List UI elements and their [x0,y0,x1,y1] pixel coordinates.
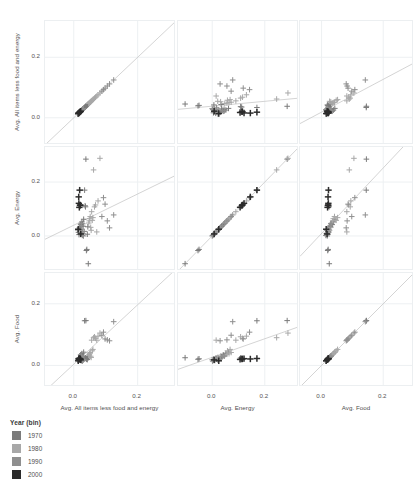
data-point [107,225,113,231]
data-point [285,90,291,96]
data-point [240,85,246,91]
legend-item-1970[interactable]: 1970 [10,429,130,442]
data-point [196,356,202,362]
data-point [90,215,96,221]
data-point [230,77,236,83]
data-point [83,156,89,162]
scatter-plot-matrix: 0.20.0Avg. All items less food and energ… [0,0,415,410]
data-point [325,247,331,253]
data-point [89,209,95,215]
data-point [76,194,82,200]
legend-swatch-icon [12,457,21,466]
trend-line [178,147,298,270]
data-point [76,187,82,193]
y-axis-title: Avg. Energy [13,191,20,225]
data-point [88,227,94,233]
data-point [344,209,350,215]
data-point [363,212,369,218]
scatter-panel-r1c1[interactable] [44,20,175,144]
data-point [217,338,223,344]
data-point [349,214,355,220]
legend-item-1980[interactable]: 1980 [10,442,130,455]
data-point [224,337,230,343]
x-axis-title: Avg. Energy [177,404,298,411]
data-point [344,218,350,224]
data-point [325,194,331,200]
data-point [254,109,260,115]
x-tick-label: 0.2 [125,392,149,399]
scatter-panel-r1c3[interactable] [299,20,413,144]
legend-item-label: 1970 [28,432,42,439]
data-point [363,77,369,83]
data-point [325,187,331,193]
x-tick-label: 0.0 [61,392,85,399]
data-point [182,355,188,361]
y-tick-label: 0.0 [18,360,40,367]
scatter-panel-r2c2[interactable] [177,146,298,270]
data-point [364,103,370,109]
data-point [254,355,260,361]
data-point [230,319,236,325]
data-point [364,156,370,162]
y-axis-title: Avg. All items less food and energy [13,33,20,131]
data-point [346,167,352,173]
data-point [97,156,103,162]
x-tick-label: 0.2 [252,392,276,399]
data-point [247,110,253,116]
data-point [227,97,233,103]
scatter-panel-r1c2[interactable] [177,20,298,144]
data-point [326,261,332,267]
data-point [102,201,108,207]
legend-item-label: 2000 [28,471,42,478]
scatter-panel-r2c3[interactable] [299,146,413,270]
data-point [94,229,100,235]
legend-item-1990[interactable]: 1990 [10,455,130,468]
data-point [351,156,357,162]
data-point [84,247,90,253]
data-point [247,329,253,335]
data-point [284,103,290,109]
data-point [343,225,349,231]
data-point [284,318,290,324]
legend-item-label: 1990 [28,458,42,465]
legend-item-2000[interactable]: 2000 [10,468,130,481]
data-point [111,319,117,325]
data-point [215,98,221,104]
data-point [218,102,224,108]
data-point [233,337,239,343]
x-tick-label: 0.0 [199,392,223,399]
data-point [224,83,230,89]
trend-line [300,147,413,256]
scatter-panel-r3c1[interactable] [44,272,175,386]
scatter-panel-r3c3[interactable] [299,272,413,386]
data-point [91,167,97,173]
data-point [274,96,280,102]
legend-swatch-icon [12,444,21,453]
y-axis-title: Avg. Food [13,315,20,344]
legend-item-label: 1980 [28,445,42,452]
data-point [213,93,219,99]
legend-items: 1970198019902000 [10,429,130,481]
trend-line [178,98,298,109]
data-point [111,212,117,218]
data-point [213,337,219,343]
legend: Year (bin) 1970198019902000 [10,419,130,481]
x-axis-title: Avg. All items less food and energy [44,404,175,411]
trend-line [300,273,413,386]
scatter-panel-r2c1[interactable] [44,146,175,270]
data-point [85,224,91,230]
scatter-panel-r3c2[interactable] [177,272,298,386]
splom-figure: 0.20.0Avg. All items less food and energ… [0,0,415,503]
data-point [105,218,111,224]
data-point [85,261,91,267]
data-point [95,198,101,204]
legend-swatch-icon [12,431,21,440]
trend-line [45,273,175,386]
data-point [90,347,96,353]
data-point [99,214,105,220]
legend-title: Year (bin) [10,419,130,426]
x-tick-label: 0.0 [309,392,333,399]
data-point [101,195,107,201]
y-tick-label: 0.2 [18,299,40,306]
data-point [217,81,223,87]
